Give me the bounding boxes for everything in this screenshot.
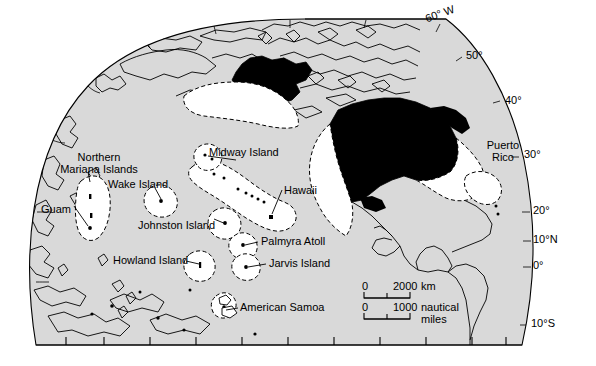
scale-km-zero: 0 [362,281,368,293]
label-american-samoa: American Samoa [240,302,324,314]
graticule-label-lat-0: 0° [533,260,544,272]
scale-km-unit: km [421,281,436,293]
scale-nm-zero: 0 [362,302,368,314]
scale-nm-max: 1000 [393,302,417,314]
label-midway-island: Midway Island [209,147,279,159]
graticule-label-lat-10n: 10°N [533,234,558,246]
label-johnston-island: Johnston Island [138,220,215,232]
label-jarvis-island: Jarvis Island [269,258,330,270]
label-guam: Guam [41,204,71,216]
island-point-northern-marianas [89,194,91,199]
island-point-guam [88,226,92,230]
graticule-label-lat-20: 20° [533,205,550,217]
island-point-wake [159,199,163,203]
graticule-label-lat-10s: 10°S [531,318,555,330]
graticule-label-lat-50: 50° [466,50,483,62]
label-howland-island: Howland Island [113,255,188,267]
pacific-territories-map: 60° W 50° 40° 30° 20° 10°N 0° 10°S North… [0,0,596,366]
island-point-jarvis [244,265,248,269]
island-point-midway-a [203,153,206,156]
label-northern-mariana-islands: Northern Mariana Islands [39,152,159,176]
scale-km-max: 2000 [393,281,417,293]
island-point-hawaii [269,215,273,219]
island-point-saipan [90,213,92,218]
graticule-label-lat-40: 40° [505,95,522,107]
label-puerto-rico: Puerto Rico [478,140,528,164]
island-point-howland [199,262,201,268]
label-wake-island: Wake Island [108,179,168,191]
island-point-palmyra [241,243,245,247]
scale-nm-unit: nautical miles [421,302,459,326]
label-palmyra-atoll: Palmyra Atoll [261,236,325,248]
label-hawaii: Hawaii [284,185,317,197]
